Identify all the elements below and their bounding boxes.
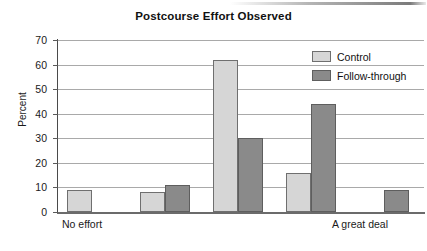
x-axis-line (57, 212, 425, 214)
legend-label: Follow-through (337, 70, 406, 82)
gridline-50 (58, 89, 424, 90)
bar-control-2 (213, 60, 238, 212)
bar-follow-through-3 (311, 104, 336, 212)
chart-title: Postcourse Effort Observed (0, 10, 427, 22)
y-tick-label-30: 30 (17, 133, 47, 144)
bar-follow-through-2 (238, 138, 263, 212)
bar-control-1 (140, 192, 165, 212)
y-tick-label-20: 20 (17, 158, 47, 169)
y-tick-label-60: 60 (17, 60, 47, 71)
scan-artifact (230, 2, 426, 5)
bar-control-0 (67, 190, 92, 212)
bar-chart-figure: Postcourse Effort Observed Percent 01020… (0, 0, 427, 251)
bar-control-3 (286, 173, 311, 212)
x-axis-label-right: A great deal (332, 218, 388, 230)
chart-legend: ControlFollow-through (312, 48, 427, 86)
y-tick-mark-0 (53, 212, 58, 213)
legend-item-control[interactable]: Control (312, 48, 427, 65)
y-tick-label-40: 40 (17, 109, 47, 120)
dark-gray-swatch (312, 70, 331, 81)
gridline-70 (58, 40, 424, 41)
y-tick-label-70: 70 (17, 35, 47, 46)
x-axis-label-left: No effort (62, 218, 102, 230)
y-tick-label-50: 50 (17, 84, 47, 95)
y-tick-label-0: 0 (17, 207, 47, 218)
legend-item-follow-through[interactable]: Follow-through (312, 67, 427, 84)
bar-follow-through-1 (165, 185, 190, 212)
light-gray-swatch (312, 51, 331, 62)
bar-follow-through-4 (384, 190, 409, 212)
y-tick-label-10: 10 (17, 182, 47, 193)
legend-label: Control (337, 51, 371, 63)
gridline-40 (58, 114, 424, 115)
